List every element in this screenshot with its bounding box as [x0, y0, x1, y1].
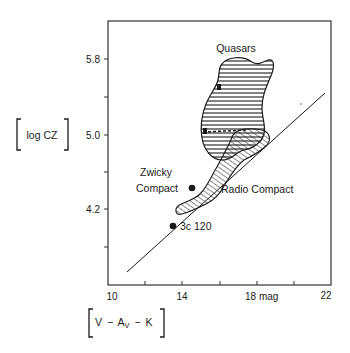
- svg-text:log CZ: log CZ: [27, 129, 59, 141]
- x-tick-label: 10: [106, 291, 118, 302]
- svg-text:V − AV −: V − AV − K: [95, 316, 152, 330]
- y-tick-label: 5.8: [86, 54, 100, 65]
- y-tick-label: 4.2: [86, 204, 100, 215]
- x-tick-label: 22: [320, 290, 332, 301]
- y-tick-label: 5.0: [86, 130, 100, 141]
- marker: [217, 84, 221, 90]
- zwicky-label: Zwicky: [140, 166, 173, 178]
- x-tick-label: 18 mag: [245, 291, 278, 302]
- stray-dot: [300, 103, 302, 105]
- 3c120-label: 3c 120: [180, 220, 212, 232]
- marker: [203, 128, 207, 134]
- chart-figure: 5.8 5.0 4.2 10 14 18 mag 22 log CZ V − A…: [0, 0, 350, 353]
- zwicky-label: Compact: [136, 182, 178, 194]
- x-tick-label: 14: [176, 291, 188, 302]
- y-axis-title: log CZ: [17, 119, 68, 150]
- zwicky-compact-point: [189, 185, 196, 192]
- quasars-label: Quasars: [216, 42, 256, 54]
- x-axis-title: V − AV − K: [89, 309, 164, 337]
- radio-compact-label: Radio Compact: [221, 183, 293, 195]
- 3c120-point: [170, 223, 177, 230]
